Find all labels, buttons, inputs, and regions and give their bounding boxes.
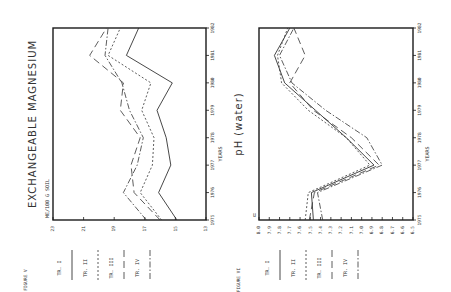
year-tick-label: 1982 <box>417 22 422 33</box>
year-tick-label: 1982 <box>210 22 215 33</box>
value-tick-label: 19 <box>111 226 116 232</box>
year-tick-label: 1980 <box>210 77 215 88</box>
value-tick-label: 7.0 <box>359 226 364 234</box>
value-tick-label: 21 <box>81 226 86 232</box>
series-line <box>278 28 370 220</box>
value-tick-label: 6.7 <box>390 226 395 234</box>
value-tick-label: 13 <box>203 226 208 232</box>
chart-2: 8.07.97.87.77.67.57.47.37.27.17.06.96.86… <box>233 22 430 292</box>
value-tick-label: 6.8 <box>379 226 384 234</box>
value-tick-label: 7.5 <box>308 226 313 234</box>
series-line <box>290 28 379 220</box>
figure-canvas: 2321191715131975197619771978197919801981… <box>0 0 451 292</box>
series-line <box>108 28 162 220</box>
x-axis-title: YEARS <box>424 146 430 161</box>
value-tick-label: 17 <box>142 226 147 232</box>
value-tick-label: 8.0 <box>256 226 261 234</box>
year-tick-label: 1981 <box>210 50 215 61</box>
year-tick-label: 1978 <box>417 132 422 143</box>
year-tick-label: 1975 <box>417 214 422 225</box>
value-tick-label: 7.3 <box>328 226 333 234</box>
chart-1: 2321191715131975197619771978197919801981… <box>23 22 223 291</box>
year-tick-label: 1976 <box>210 187 215 198</box>
value-tick-label: 15 <box>173 226 178 232</box>
legend-label: TR. I <box>264 260 270 275</box>
y-axis-unit: ME/100 G SOIL <box>44 179 50 218</box>
series-line <box>90 28 160 220</box>
value-tick-label: 7.6 <box>297 226 302 234</box>
chart-title: EXCHANGEABLE MAGNESIUM <box>27 40 38 208</box>
series-line <box>105 28 146 220</box>
chart-title: pH (water) <box>233 92 244 155</box>
corner-label: U <box>253 212 256 218</box>
year-tick-label: 1980 <box>417 77 422 88</box>
legend-label: TR. IV <box>342 259 348 277</box>
value-tick-label: 7.9 <box>267 226 272 234</box>
year-tick-label: 1981 <box>417 50 422 61</box>
legend-label: TR. IV <box>134 259 140 277</box>
year-tick-label: 1979 <box>417 105 422 116</box>
plot-frame <box>259 28 413 220</box>
value-tick-label: 7.4 <box>318 226 323 234</box>
value-tick-label: 7.2 <box>338 226 343 234</box>
value-tick-label: 7.1 <box>349 226 354 234</box>
legend-label: TR. II <box>290 259 296 277</box>
year-tick-label: 1975 <box>210 214 215 225</box>
figure-label: FIGURE V <box>23 269 28 291</box>
year-tick-label: 1977 <box>210 159 215 170</box>
series-line <box>274 28 374 220</box>
value-tick-label: 6.6 <box>400 226 405 234</box>
value-tick-label: 7.8 <box>277 226 282 234</box>
year-tick-label: 1977 <box>417 159 422 170</box>
year-tick-label: 1979 <box>210 105 215 116</box>
legend-label: TR. III <box>108 257 114 278</box>
value-tick-label: 6.5 <box>410 226 415 234</box>
figure-label: FIGURE VI <box>236 268 241 292</box>
x-axis-title: YEARS <box>217 146 223 161</box>
legend-label: TR. III <box>316 257 322 278</box>
value-tick-label: 7.7 <box>287 226 292 234</box>
year-tick-label: 1976 <box>417 187 422 198</box>
legend-label: TR. II <box>82 259 88 277</box>
value-tick-label: 6.9 <box>369 226 374 234</box>
legend-label: TR. I <box>56 260 62 275</box>
value-tick-label: 23 <box>50 226 55 232</box>
year-tick-label: 1978 <box>210 132 215 143</box>
